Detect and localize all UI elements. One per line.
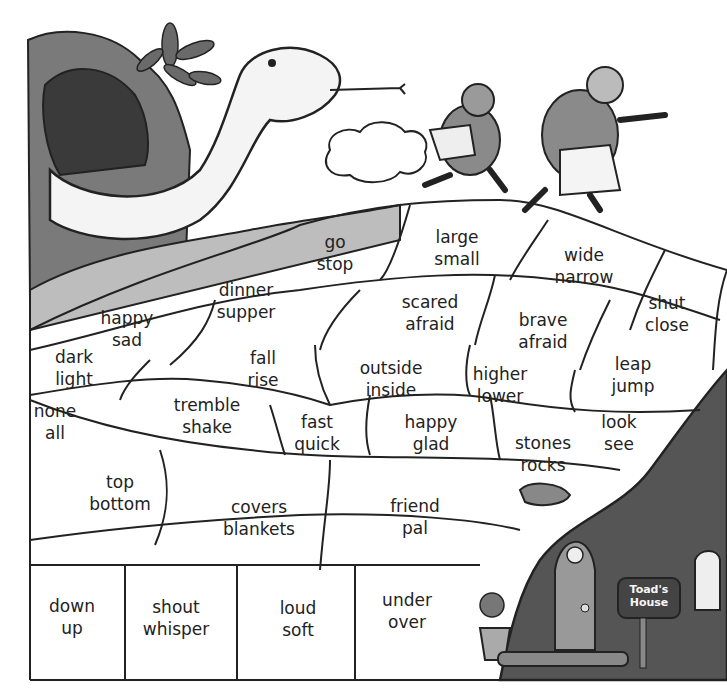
word-pair-happy-glad[interactable]: happyglad (405, 411, 458, 455)
mailbox-label-line2: House (620, 596, 678, 609)
door-window (567, 547, 583, 563)
word-a: leap (612, 353, 655, 375)
house-window (695, 551, 720, 610)
word-pair-dark-light[interactable]: darklight (55, 346, 93, 390)
word-b: supper (217, 301, 276, 323)
word-a: higher (473, 363, 528, 385)
word-a: dinner (217, 279, 276, 301)
word-a: loud (280, 597, 317, 619)
word-b: close (645, 314, 689, 336)
mailbox-label: Toad's House (620, 583, 678, 619)
word-pair-fall-rise[interactable]: fallrise (247, 347, 278, 391)
word-pair-fast-quick[interactable]: fastquick (294, 411, 339, 455)
word-a: stones (515, 432, 571, 454)
word-pair-under-over[interactable]: underover (382, 589, 432, 633)
snake-tongue (330, 84, 405, 94)
word-pair-look-see[interactable]: looksee (601, 411, 636, 455)
word-pair-none-all[interactable]: noneall (34, 400, 76, 444)
word-a: fall (247, 347, 278, 369)
word-a: brave (518, 309, 567, 331)
word-a: scared (402, 291, 459, 313)
word-pair-leap-jump[interactable]: leapjump (612, 353, 655, 397)
word-b: bottom (89, 493, 150, 515)
word-b: inside (360, 379, 423, 401)
word-b: jump (612, 375, 655, 397)
word-b: shake (174, 416, 240, 438)
mailbox-label-line1: Toad's (620, 583, 678, 596)
word-b: small (434, 248, 479, 270)
word-pair-tremble-shake[interactable]: trembleshake (174, 394, 240, 438)
word-b: stop (317, 253, 354, 275)
word-a: look (601, 411, 636, 433)
word-b: rocks (515, 454, 571, 476)
word-b: up (49, 617, 95, 639)
word-a: shout (143, 596, 210, 618)
word-pair-shout-whisper[interactable]: shoutwhisper (143, 596, 210, 640)
word-b: lower (473, 385, 528, 407)
word-pair-outside-inside[interactable]: outsideinside (360, 357, 423, 401)
word-pair-stones-rocks[interactable]: stonesrocks (515, 432, 571, 476)
word-pair-large-small[interactable]: largesmall (434, 226, 479, 270)
word-b: sad (101, 329, 154, 351)
flowers (480, 593, 504, 617)
dust-cloud (326, 122, 426, 182)
word-a: friend (390, 495, 440, 517)
word-b: see (601, 433, 636, 455)
word-a: down (49, 595, 95, 617)
word-pair-shut-close[interactable]: shutclose (645, 292, 689, 336)
word-pair-loud-soft[interactable]: loudsoft (280, 597, 317, 641)
word-b: glad (405, 433, 458, 455)
word-b: over (382, 611, 432, 633)
toad-character (525, 67, 665, 210)
word-pair-higher-lower[interactable]: higherlower (473, 363, 528, 407)
word-a: fast (294, 411, 339, 433)
word-pair-scared-afraid[interactable]: scaredafraid (402, 291, 459, 335)
word-pair-wide-narrow[interactable]: widenarrow (555, 244, 614, 288)
word-b: afraid (518, 331, 567, 353)
word-b: quick (294, 433, 339, 455)
word-b: whisper (143, 618, 210, 640)
word-b: afraid (402, 313, 459, 335)
word-b: light (55, 368, 93, 390)
word-a: shut (645, 292, 689, 314)
word-a: large (434, 226, 479, 248)
word-a: go (317, 231, 354, 253)
word-pair-down-up[interactable]: downup (49, 595, 95, 639)
door-knob (581, 604, 589, 612)
word-b: rise (247, 369, 278, 391)
frog-character (425, 84, 505, 190)
log (498, 652, 628, 666)
snake-eye (268, 59, 276, 67)
word-a: dark (55, 346, 93, 368)
word-a: outside (360, 357, 423, 379)
word-b: all (34, 422, 76, 444)
word-a: happy (101, 307, 154, 329)
word-a: happy (405, 411, 458, 433)
word-a: tremble (174, 394, 240, 416)
word-pair-happy-sad[interactable]: happysad (101, 307, 154, 351)
word-pair-brave-afraid[interactable]: braveafraid (518, 309, 567, 353)
word-pair-friend-pal[interactable]: friendpal (390, 495, 440, 539)
word-pair-covers-blankets[interactable]: coversblankets (223, 496, 295, 540)
word-pair-dinner-supper[interactable]: dinnersupper (217, 279, 276, 323)
word-b: narrow (555, 266, 614, 288)
word-b: soft (280, 619, 317, 641)
word-b: pal (390, 517, 440, 539)
word-a: none (34, 400, 76, 422)
word-pair-go-stop[interactable]: gostop (317, 231, 354, 275)
word-b: blankets (223, 518, 295, 540)
word-a: covers (223, 496, 295, 518)
word-a: top (89, 471, 150, 493)
word-a: under (382, 589, 432, 611)
mailbox-post (640, 618, 646, 668)
tree-leaves (520, 484, 570, 505)
word-a: wide (555, 244, 614, 266)
word-pair-top-bottom[interactable]: topbottom (89, 471, 150, 515)
